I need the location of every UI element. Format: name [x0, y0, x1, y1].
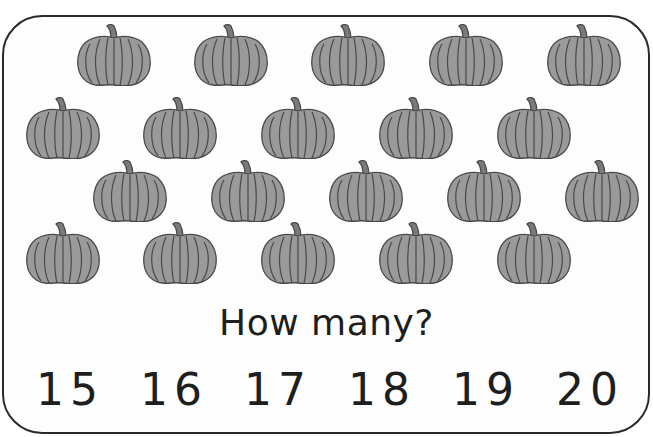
pumpkin-icon — [328, 160, 404, 222]
choice-16[interactable]: 16 — [134, 364, 214, 415]
pumpkin-icon — [142, 222, 218, 284]
pumpkin-icon — [446, 160, 522, 222]
pumpkin-icon — [142, 97, 218, 159]
choice-18[interactable]: 18 — [342, 364, 422, 415]
choice-17[interactable]: 17 — [238, 364, 318, 415]
pumpkin-icon — [546, 24, 622, 86]
pumpkin-icon — [378, 97, 454, 159]
pumpkin-icon — [25, 222, 101, 284]
answer-choices: 15 16 17 18 19 20 — [30, 364, 630, 415]
pumpkin-icon — [564, 160, 640, 222]
pumpkin-icon — [76, 24, 152, 86]
pumpkin-icon — [92, 160, 168, 222]
pumpkin-icon — [210, 160, 286, 222]
choice-19[interactable]: 19 — [446, 364, 526, 415]
pumpkin-icon — [496, 97, 572, 159]
choice-15[interactable]: 15 — [30, 364, 110, 415]
question-text: How many? — [0, 302, 653, 343]
pumpkin-icon — [260, 222, 336, 284]
pumpkin-icon — [378, 222, 454, 284]
pumpkin-icon — [310, 24, 386, 86]
pumpkin-icon — [428, 24, 504, 86]
pumpkin-icon — [260, 97, 336, 159]
pumpkin-icon — [193, 24, 269, 86]
pumpkin-icon — [496, 222, 572, 284]
choice-20[interactable]: 20 — [550, 364, 630, 415]
pumpkin-icon — [25, 97, 101, 159]
